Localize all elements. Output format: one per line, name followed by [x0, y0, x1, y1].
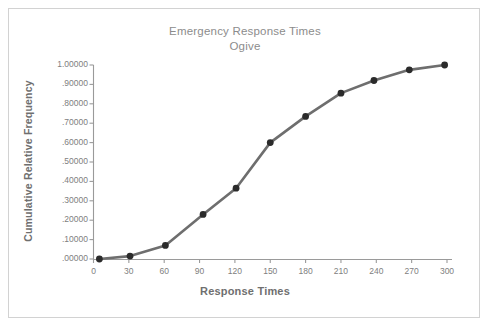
x-tick-label: 150 — [250, 267, 290, 276]
x-tick-label: 120 — [215, 267, 255, 276]
x-axis-tick-labels: 0306090120150180210240270300 — [0, 0, 490, 328]
x-tick-label: 300 — [427, 267, 467, 276]
x-axis-label: Response Times — [0, 285, 490, 297]
x-tick-label: 60 — [144, 267, 184, 276]
y-axis-label-wrapper: Cumulative Relative Frequency — [14, 0, 36, 328]
x-tick-label: 240 — [356, 267, 396, 276]
x-tick-label: 270 — [392, 267, 432, 276]
x-tick-label: 0 — [74, 267, 114, 276]
x-tick-label: 90 — [180, 267, 220, 276]
chart-figure: Emergency Response Times Ogive 5, .00000… — [0, 0, 490, 328]
y-axis-label: Cumulative Relative Frequency — [22, 71, 34, 251]
x-tick-label: 210 — [321, 267, 361, 276]
x-tick-label: 30 — [109, 267, 149, 276]
x-tick-label: 180 — [286, 267, 326, 276]
